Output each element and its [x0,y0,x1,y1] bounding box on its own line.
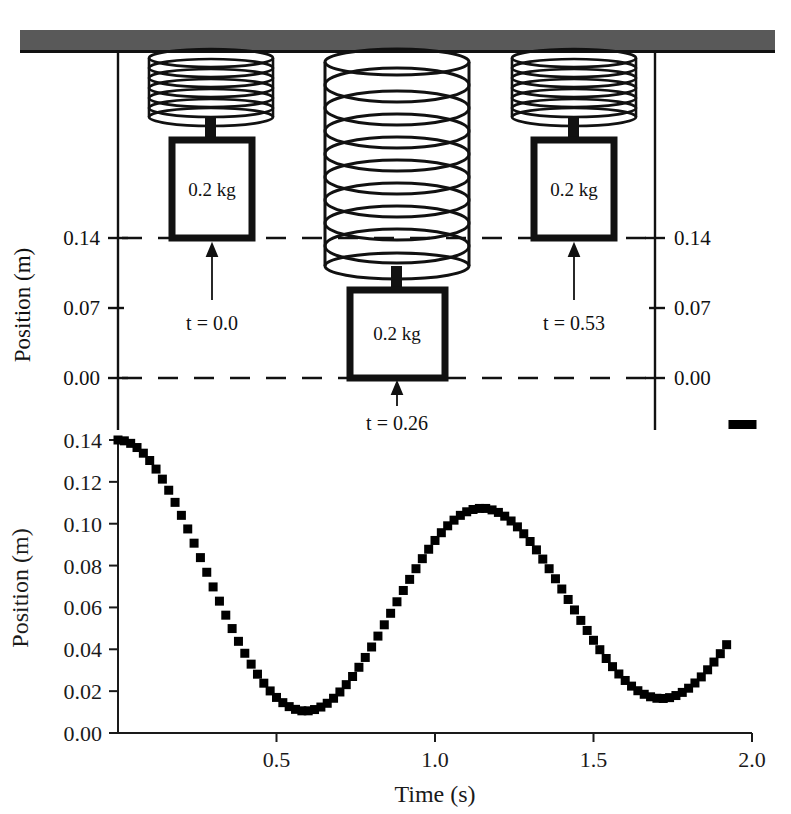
chart-data-point [145,456,154,465]
pointer-arrow-t026 [392,382,402,406]
chart-data-point [253,670,262,679]
chart-data-point [703,665,712,674]
chart-data-point [399,586,408,595]
snapshot-t053: 0.2 kg t = 0.53 [512,49,636,334]
diagram-y-axis-title: Position (m) [10,248,35,362]
diagram-right-tick-label-000: 0.00 [674,366,711,390]
chart-data-point [196,553,205,562]
chart-y-tick-label: 0.06 [64,595,103,620]
spring-mass-diagram-panel: 0.14 0.07 0.00 0.14 0.07 0.00 Position (… [0,0,791,440]
chart-data-point [392,597,401,606]
chart-data-point [418,554,427,563]
chart-data-point [589,636,598,645]
chart-y-axis-title: Position (m) [7,528,33,647]
diagram-right-tick-label-007: 0.07 [674,296,711,320]
snapshot-t0: 0.2 kg t = 0.0 [149,49,273,334]
chart-data-point [564,595,573,604]
chart-x-axis-title: Time (s) [394,781,475,807]
chart-data-point [202,568,211,577]
chart-data-point [532,545,541,554]
chart-data-point [748,420,757,429]
chart-data-point [716,649,725,658]
chart-data-point [431,536,440,545]
chart-data-point [177,511,186,520]
diagram-left-tick-label-014: 0.14 [63,226,100,250]
chart-data-point [722,640,731,649]
chart-x-tick-label: 0.5 [263,747,291,772]
chart-y-tick-label: 0.08 [64,554,103,579]
chart-data-point [228,624,237,633]
chart-data-point [158,475,167,484]
chart-data-point [221,611,230,620]
spring-compressed-left [149,49,273,126]
chart-data-point [367,642,376,651]
mass-block-label-t053: 0.2 kg [550,179,598,200]
chart-data-point [411,564,420,573]
snapshot-t026: 0.2 kg t = 0.26 [325,49,469,434]
chart-x-tick-label: 2.0 [738,747,766,772]
chart-data-point [190,539,199,548]
chart-data-points [114,420,757,715]
chart-y-tick-label: 0.02 [64,679,103,704]
chart-data-point [519,529,528,538]
chart-data-point [152,465,161,474]
diagram-right-tick-label-014: 0.14 [674,226,711,250]
chart-data-point [583,626,592,635]
pointer-arrow-t0 [207,244,217,300]
chart-data-point [342,680,351,689]
chart-data-point [209,582,218,591]
spring-compressed-right [512,49,636,126]
chart-y-ticks: 0.000.020.040.060.080.100.120.14 [64,428,119,746]
diagram-left-tick-label-007: 0.07 [63,296,100,320]
mass-block-label-t026: 0.2 kg [373,323,421,344]
chart-data-point [380,620,389,629]
chart-data-point [570,605,579,614]
chart-data-point [361,653,370,662]
chart-data-point [240,649,249,658]
chart-data-point [576,616,585,625]
chart-data-point [373,632,382,641]
chart-data-point [354,663,363,672]
chart-data-point [386,609,395,618]
time-label-t053: t = 0.53 [543,312,605,334]
pointer-arrow-t053 [569,244,579,300]
chart-data-point [602,654,611,663]
spring-stretched-middle [325,49,469,279]
chart-y-tick-label: 0.00 [64,721,103,746]
chart-data-point [405,575,414,584]
chart-data-point [709,658,718,667]
diagram-left-tick-label-000: 0.00 [63,366,100,390]
chart-y-tick-label: 0.14 [64,428,103,453]
chart-data-point [557,585,566,594]
mass-block-label-t0: 0.2 kg [188,179,236,200]
chart-data-point [234,637,243,646]
chart-data-point [526,537,535,546]
time-label-t0: t = 0.0 [186,312,238,334]
chart-data-point [551,574,560,583]
chart-x-tick-label: 1.5 [580,747,608,772]
position-vs-time-chart: 0.000.020.040.060.080.100.120.14 0.51.01… [0,420,791,814]
chart-x-ticks: 0.51.01.52.0 [263,733,766,772]
chart-data-point [259,679,268,688]
chart-data-point [164,486,173,495]
chart-data-point [171,498,180,507]
chart-y-tick-label: 0.10 [64,512,103,537]
chart-x-tick-label: 1.0 [421,747,449,772]
chart-data-point [545,564,554,573]
chart-data-point [215,597,224,606]
chart-data-point [424,545,433,554]
chart-y-tick-label: 0.12 [64,470,103,495]
chart-y-tick-label: 0.04 [64,637,103,662]
chart-data-point [538,555,547,564]
chart-data-point [247,660,256,669]
figure-root: 0.14 0.07 0.00 0.14 0.07 0.00 Position (… [0,0,791,814]
chart-data-point [183,524,192,533]
chart-data-point [595,645,604,654]
chart-data-point [348,672,357,681]
